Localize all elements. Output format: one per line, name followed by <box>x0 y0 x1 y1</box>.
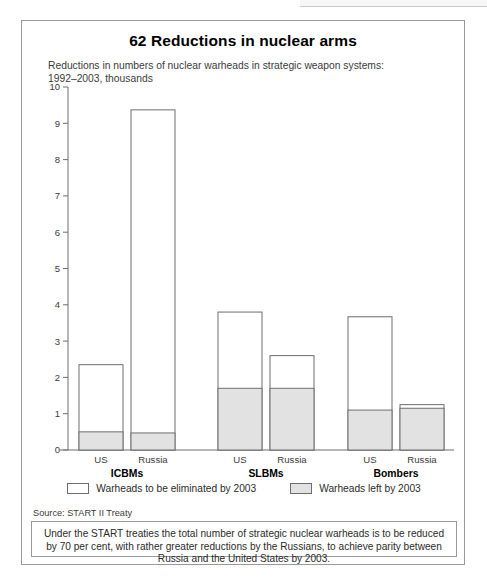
bar-segment-eliminated <box>400 405 444 450</box>
bar-segment-eliminated <box>218 312 262 450</box>
legend-item: Warheads to be eliminated by 2003 <box>67 483 256 494</box>
source-note: Source: START II Treaty <box>33 508 132 518</box>
scan-edge <box>300 0 487 7</box>
bars-layer <box>79 110 444 450</box>
group-label: Bombers <box>373 468 418 479</box>
bar-segment-left <box>79 432 123 450</box>
footnote-text: Under the START treaties the total numbe… <box>41 528 447 566</box>
legend-swatch-eliminated-icon <box>67 483 89 494</box>
y-tick-label: 8 <box>55 154 60 165</box>
bar-country-label: Russia <box>138 454 168 465</box>
bar-country-label: Russia <box>407 454 437 465</box>
bar-segment-left <box>218 388 262 450</box>
x-axis-labels: USRussiaUSRussiaUSRussiaICBMsSLBMsBomber… <box>94 454 437 479</box>
group-label: ICBMs <box>111 468 144 479</box>
bar-segment-left <box>400 408 444 450</box>
bar-segment-eliminated <box>131 110 175 450</box>
figure-frame: 62 Reductions in nuclear arms Reductions… <box>21 20 465 565</box>
bar-segment-left <box>348 410 392 450</box>
legend-label-eliminated: Warheads to be eliminated by 2003 <box>96 483 256 494</box>
y-tick-label: 3 <box>55 336 60 347</box>
y-axis-ticks: 012345678910 <box>49 81 68 455</box>
bar-segment-eliminated <box>270 356 314 450</box>
legend-label-left: Warheads left by 2003 <box>319 483 421 494</box>
legend-swatch-left-icon <box>290 483 312 494</box>
bar-segment-eliminated <box>348 317 392 450</box>
chart-subtitle: Reductions in numbers of nuclear warhead… <box>48 59 408 85</box>
bar-country-label: US <box>363 454 376 465</box>
bar-segment-left <box>270 388 314 450</box>
y-tick-label: 7 <box>55 190 60 201</box>
bar-segment-eliminated <box>79 365 123 450</box>
bar-segment-left <box>131 433 175 450</box>
footnote-box: Under the START treaties the total numbe… <box>31 521 457 557</box>
chart-legend: Warheads to be eliminated by 2003 Warhea… <box>22 483 466 494</box>
y-tick-label: 4 <box>55 299 60 310</box>
y-tick-label: 5 <box>55 263 60 274</box>
bar-country-label: US <box>233 454 246 465</box>
y-tick-label: 2 <box>55 372 60 383</box>
y-tick-label: 6 <box>55 227 60 238</box>
chart-title: 62 Reductions in nuclear arms <box>22 32 464 50</box>
bar-country-label: US <box>94 454 107 465</box>
bar-country-label: Russia <box>277 454 307 465</box>
y-tick-label: 9 <box>55 118 60 129</box>
y-tick-label: 1 <box>55 408 60 419</box>
group-label: SLBMs <box>248 468 283 479</box>
y-tick-label: 0 <box>55 444 60 455</box>
legend-item: Warheads left by 2003 <box>290 483 421 494</box>
